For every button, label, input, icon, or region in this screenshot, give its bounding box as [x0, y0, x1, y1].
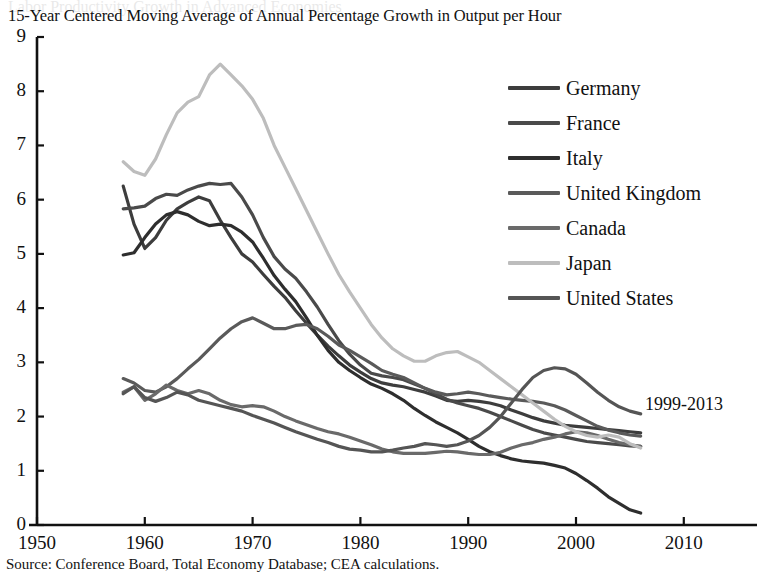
x-axis-tick-label: 2000: [541, 533, 611, 552]
legend-swatch-icon: [508, 191, 560, 195]
legend-label: France: [566, 113, 620, 133]
legend-label: Germany: [566, 78, 640, 98]
y-axis-tick-label: 8: [0, 80, 26, 99]
legend-item-japan[interactable]: Japan: [508, 245, 701, 280]
legend-swatch-icon: [508, 121, 560, 125]
y-axis-tick-label: 1: [0, 460, 26, 479]
legend-item-france[interactable]: France: [508, 105, 701, 140]
legend-label: United Kingdom: [566, 183, 701, 203]
x-axis-tick-label: 1970: [218, 533, 288, 552]
chart-legend: GermanyFranceItalyUnited KingdomCanadaJa…: [508, 70, 701, 315]
legend-swatch-icon: [508, 296, 560, 300]
legend-label: Japan: [566, 253, 612, 273]
y-axis-tick-label: 4: [0, 297, 26, 316]
chart-annotation: 1999-2013: [645, 394, 723, 414]
x-axis-tick-label: 1990: [433, 533, 503, 552]
y-axis-tick-label: 3: [0, 351, 26, 370]
chart-line-canada: [123, 385, 640, 454]
y-axis-tick-label: 6: [0, 189, 26, 208]
legend-label: Canada: [566, 218, 626, 238]
y-axis-tick-label: 7: [0, 134, 26, 153]
legend-item-germany[interactable]: Germany: [508, 70, 701, 105]
legend-label: United States: [566, 288, 673, 308]
x-axis-tick-label: 1960: [110, 533, 180, 552]
x-axis-tick-label: 1980: [325, 533, 395, 552]
legend-label: Italy: [566, 148, 603, 168]
y-axis-tick-label: 5: [0, 243, 26, 262]
y-axis-tick-label: 9: [0, 26, 26, 45]
legend-item-united-kingdom[interactable]: United Kingdom: [508, 175, 701, 210]
legend-swatch-icon: [508, 156, 560, 160]
legend-item-canada[interactable]: Canada: [508, 210, 701, 245]
legend-swatch-icon: [508, 86, 560, 90]
legend-item-italy[interactable]: Italy: [508, 140, 701, 175]
x-axis-tick-label: 1950: [2, 533, 72, 552]
x-axis-tick-label: 2010: [649, 533, 719, 552]
legend-swatch-icon: [508, 261, 560, 265]
legend-swatch-icon: [508, 226, 560, 230]
y-axis-tick-label: 2: [0, 406, 26, 425]
y-axis-tick-label: 0: [0, 514, 26, 533]
legend-item-united-states[interactable]: United States: [508, 280, 701, 315]
source-note: Source: Conference Board, Total Economy …: [6, 556, 439, 573]
